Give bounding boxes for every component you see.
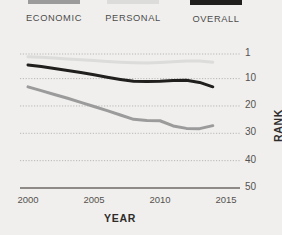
- x-tick-2000: 2000: [8, 194, 48, 205]
- y-tick-10: 10: [245, 72, 256, 83]
- series-line-personal: [28, 57, 213, 63]
- series-lines: [28, 57, 213, 129]
- y-tick-20: 20: [245, 99, 256, 110]
- x-tick-2015: 2015: [206, 194, 246, 205]
- x-tick-2005: 2005: [74, 194, 114, 205]
- y-tick-50: 50: [245, 181, 256, 192]
- y-tick-40: 40: [245, 154, 256, 165]
- y-axis-title: RANK: [272, 109, 282, 142]
- series-line-economic: [28, 87, 213, 129]
- y-tick-1: 1: [245, 47, 251, 58]
- gridlines: [20, 54, 240, 188]
- x-tick-2010: 2010: [140, 194, 180, 205]
- plot-area: 11020304050 2000200520102015 RANK YEAR: [0, 0, 282, 235]
- series-line-overall: [28, 65, 213, 87]
- x-axis-title: YEAR: [0, 212, 240, 224]
- y-tick-30: 30: [245, 126, 256, 137]
- rank-line-chart: ECONOMIC PERSONAL OVERALL 11020304050 20…: [0, 0, 282, 235]
